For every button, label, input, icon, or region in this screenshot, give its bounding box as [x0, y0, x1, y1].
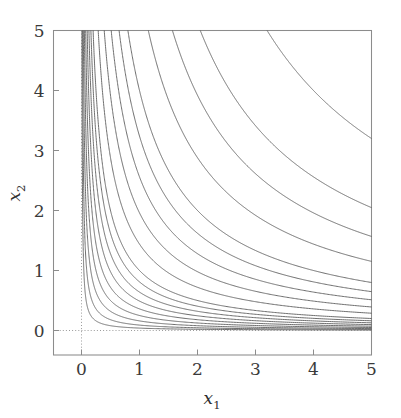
y-axis-tick-label-5: 5: [34, 21, 45, 41]
contour-curve-0.49: [87, 31, 371, 325]
x-axis-title-subscript: 1: [213, 398, 220, 412]
y-axis-tick-label-group: 012345: [34, 21, 45, 341]
plot-canvas: 012345 012345 x1 x2: [0, 0, 401, 418]
y-axis-title-main: x: [4, 191, 24, 201]
y-axis-tick-label-4: 4: [34, 81, 45, 101]
contour-curve-2.56: [111, 31, 371, 300]
x-axis-tick-label-2: 2: [192, 359, 203, 379]
x-axis-tick-label-5: 5: [366, 359, 377, 379]
x-axis-tick-label-1: 1: [134, 359, 145, 379]
x-axis-title: x1: [204, 388, 221, 412]
y-axis-tick-label-3: 3: [34, 141, 45, 161]
y-axis-tick-label-1: 1: [34, 261, 45, 281]
contour-curve-0.36: [86, 31, 372, 327]
contour-curve-7.84: [172, 31, 371, 237]
contour-curve-0.81: [91, 31, 372, 321]
contour-curve-4: [128, 31, 372, 283]
x-axis-tick-label-0: 0: [76, 359, 87, 379]
contour-curve-1: [93, 31, 371, 319]
contour-curve-0.25: [84, 31, 371, 328]
y-axis-tick-label-2: 2: [34, 201, 45, 221]
contour-plot-figure: 012345 012345 x1 x2: [0, 0, 401, 418]
contour-curve-5.76: [148, 31, 371, 262]
y-axis-title: x2: [4, 185, 28, 202]
contour-curve-0.64: [89, 31, 372, 323]
x-axis-tick-label-4: 4: [308, 359, 319, 379]
y-axis-tick-label-0: 0: [34, 321, 45, 341]
contour-curve-16: [267, 31, 371, 139]
x-axis-tick-label-3: 3: [250, 359, 261, 379]
y-axis-title-subscript: 2: [14, 185, 28, 192]
contour-curve-group: [82, 31, 372, 331]
contour-curve-3.24: [119, 31, 371, 292]
contour-curve-10.24: [200, 31, 371, 208]
x-axis-tick-label-group: 012345: [76, 359, 377, 379]
x-axis-title-main: x: [204, 388, 214, 408]
contour-curve-1.96: [104, 31, 371, 307]
